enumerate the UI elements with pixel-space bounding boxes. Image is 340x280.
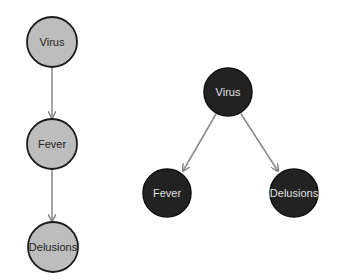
- fork-edge-virus-delusions: [241, 114, 278, 171]
- fork-node-delusions[interactable]: Delusions: [270, 169, 319, 217]
- fork-node-fever-label: Fever: [153, 187, 181, 199]
- fork-node-fever[interactable]: Fever: [143, 169, 191, 217]
- chain-node-delusions[interactable]: Delusions: [28, 222, 78, 272]
- chain-node-virus[interactable]: Virus: [27, 17, 77, 67]
- causal-diagrams: Virus Fever Delusions Virus Fever Delusi…: [0, 0, 340, 280]
- fork-node-virus-label: Virus: [216, 86, 241, 98]
- chain-node-fever-label: Fever: [38, 138, 66, 150]
- chain-node-fever[interactable]: Fever: [27, 119, 77, 169]
- fork-diagram: Virus Fever Delusions: [143, 68, 319, 217]
- chain-node-virus-label: Virus: [40, 36, 65, 48]
- fork-node-delusions-label: Delusions: [270, 187, 319, 199]
- fork-edge-virus-fever: [183, 114, 216, 171]
- chain-node-delusions-label: Delusions: [29, 241, 78, 253]
- fork-node-virus[interactable]: Virus: [204, 68, 252, 116]
- chain-diagram: Virus Fever Delusions: [27, 17, 78, 272]
